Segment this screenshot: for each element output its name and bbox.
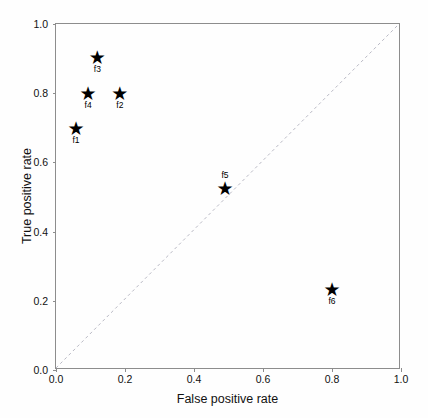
x-tick-label: 1.0 xyxy=(394,374,409,385)
y-tick-mark xyxy=(53,162,57,163)
y-axis-title: True positive rate xyxy=(20,23,38,369)
y-tick-mark xyxy=(53,370,57,371)
data-point-label: f4 xyxy=(85,101,92,110)
data-point-label: f6 xyxy=(328,297,335,306)
x-tick-label: 0.0 xyxy=(49,374,64,385)
data-point-label: f5 xyxy=(222,171,229,180)
data-point-label: f2 xyxy=(116,101,123,110)
plot-area: 0.00.20.40.60.81.0 0.00.20.40.60.81.0 ★f… xyxy=(55,23,400,369)
x-tick-mark xyxy=(332,368,333,372)
star-icon: ★ xyxy=(217,179,234,198)
x-tick-mark xyxy=(125,368,126,372)
x-tick-mark xyxy=(401,368,402,372)
x-tick-label: 0.4 xyxy=(187,374,202,385)
roc-chart-figure: 0.00.20.40.60.81.0 0.00.20.40.60.81.0 ★f… xyxy=(0,0,428,418)
x-tick-label: 0.2 xyxy=(118,374,133,385)
y-tick-mark xyxy=(53,24,57,25)
x-tick-mark xyxy=(194,368,195,372)
x-tick-mark xyxy=(56,368,57,372)
y-tick-mark xyxy=(53,232,57,233)
y-tick-mark xyxy=(53,301,57,302)
x-tick-label: 0.8 xyxy=(325,374,340,385)
x-axis-title: False positive rate xyxy=(55,392,400,406)
y-tick-mark xyxy=(53,93,57,94)
x-tick-label: 0.6 xyxy=(256,374,271,385)
data-point-label: f3 xyxy=(94,65,101,74)
x-tick-mark xyxy=(263,368,264,372)
data-point-label: f1 xyxy=(72,136,79,145)
